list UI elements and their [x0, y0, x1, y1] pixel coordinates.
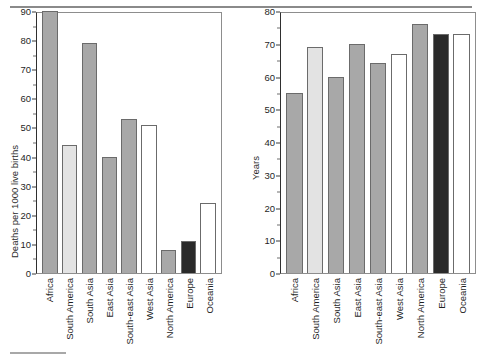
x-label-slot: West Asia [139, 275, 159, 351]
x-tick-label: South America [64, 278, 75, 340]
bar[interactable] [82, 43, 97, 273]
y-tick-label: 40 [20, 153, 31, 163]
x-label-slot: South-east Asia [367, 275, 388, 351]
y-tick-label: 40 [264, 138, 275, 148]
bar-slot [139, 13, 159, 273]
y-tick-label: 70 [264, 40, 275, 50]
bar-slot [451, 13, 472, 273]
x-label-slot: South America [304, 275, 325, 351]
bar[interactable] [349, 44, 365, 273]
chart-life-expectancy: Years 01020304050607080 AfricaSouth Amer… [242, 12, 480, 350]
y-tick-label: 30 [264, 171, 275, 181]
bar-slot [119, 13, 139, 273]
x-tick-label: Europe [436, 278, 447, 309]
bar[interactable] [161, 250, 176, 273]
y-tick-label: 50 [20, 124, 31, 134]
x-label-slot: South Asia [79, 275, 99, 351]
y-tick-label: 80 [20, 36, 31, 46]
bar-slot [409, 13, 430, 273]
bar[interactable] [121, 119, 136, 273]
x-tick-label: South Asia [330, 278, 341, 323]
bar[interactable] [433, 34, 449, 273]
x-tick-label: South America [309, 278, 320, 340]
x-label-slot: Africa [39, 275, 59, 351]
bar[interactable] [307, 47, 323, 273]
figure-page: Deaths per 1000 live births 010203040506… [0, 0, 480, 362]
y-axis-ticks: 01020304050607080 [254, 12, 280, 274]
y-tick-label: 50 [264, 106, 275, 116]
x-axis-labels: AfricaSouth AmericaSouth AsiaEast AsiaSo… [36, 275, 222, 351]
x-label-slot: West Asia [389, 275, 410, 351]
y-tick-label: 10 [20, 240, 31, 250]
y-tick-label: 20 [20, 211, 31, 221]
bar[interactable] [62, 145, 77, 273]
x-label-slot: Europe [431, 275, 452, 351]
bar-slot [305, 13, 326, 273]
x-label-slot: Europe [179, 275, 199, 351]
bar[interactable] [391, 54, 407, 273]
bar-series [37, 13, 221, 273]
bar[interactable] [328, 77, 344, 274]
x-label-slot: South-east Asia [119, 275, 139, 351]
y-tick-label: 80 [264, 7, 275, 17]
bar-slot [284, 13, 305, 273]
bar-slot [198, 13, 218, 273]
x-label-slot: Oceania [452, 275, 473, 351]
x-tick-label: Oceania [204, 278, 215, 313]
x-tick-label: West Asia [144, 278, 155, 320]
x-tick-label: South-east Asia [124, 278, 135, 345]
x-label-slot: Oceania [199, 275, 219, 351]
x-axis-labels: AfricaSouth AmericaSouth AsiaEast AsiaSo… [280, 275, 476, 351]
bar[interactable] [200, 203, 215, 273]
bar[interactable] [42, 11, 57, 273]
x-label-slot: East Asia [99, 275, 119, 351]
y-tick-label: 60 [20, 95, 31, 105]
bar-series [281, 13, 475, 273]
bar[interactable] [141, 125, 156, 273]
plot-area [36, 12, 222, 274]
y-tick-label: 0 [26, 269, 31, 279]
y-tick-label: 20 [264, 204, 275, 214]
x-tick-label: West Asia [394, 278, 405, 320]
bottom-divider-rule [10, 352, 66, 354]
bar[interactable] [412, 24, 428, 273]
bar-slot [178, 13, 198, 273]
x-tick-label: South Asia [84, 278, 95, 323]
x-tick-label: Africa [44, 278, 55, 302]
bar-slot [430, 13, 451, 273]
y-tick-label: 0 [270, 269, 275, 279]
x-label-slot: South Asia [325, 275, 346, 351]
x-tick-label: Oceania [457, 278, 468, 313]
bar[interactable] [102, 157, 117, 273]
bar-slot [159, 13, 179, 273]
x-tick-label: East Asia [351, 278, 362, 318]
plot-area [280, 12, 476, 274]
bar[interactable] [181, 241, 196, 273]
bar[interactable] [370, 63, 386, 273]
bar-slot [60, 13, 80, 273]
chart-infant-mortality: Deaths per 1000 live births 010203040506… [0, 12, 232, 350]
x-tick-label: North America [415, 278, 426, 338]
x-label-slot: North America [159, 275, 179, 351]
x-tick-label: South-east Asia [372, 278, 383, 345]
x-label-slot: Africa [283, 275, 304, 351]
bar[interactable] [453, 34, 469, 273]
x-tick-label: Africa [288, 278, 299, 302]
y-tick-label: 30 [20, 182, 31, 192]
y-tick-label: 70 [20, 65, 31, 75]
top-divider-rule [10, 6, 472, 8]
bar-slot [40, 13, 60, 273]
bar-slot [368, 13, 389, 273]
y-axis-ticks: 0102030405060708090 [10, 12, 36, 274]
x-label-slot: East Asia [346, 275, 367, 351]
bar[interactable] [286, 93, 302, 273]
bar-slot [80, 13, 100, 273]
x-label-slot: South America [59, 275, 79, 351]
y-tick-label: 60 [264, 73, 275, 83]
bar-slot [326, 13, 347, 273]
x-tick-label: Europe [184, 278, 195, 309]
x-tick-label: North America [164, 278, 175, 338]
bar-slot [347, 13, 368, 273]
y-tick-label: 10 [264, 237, 275, 247]
x-tick-label: East Asia [104, 278, 115, 318]
